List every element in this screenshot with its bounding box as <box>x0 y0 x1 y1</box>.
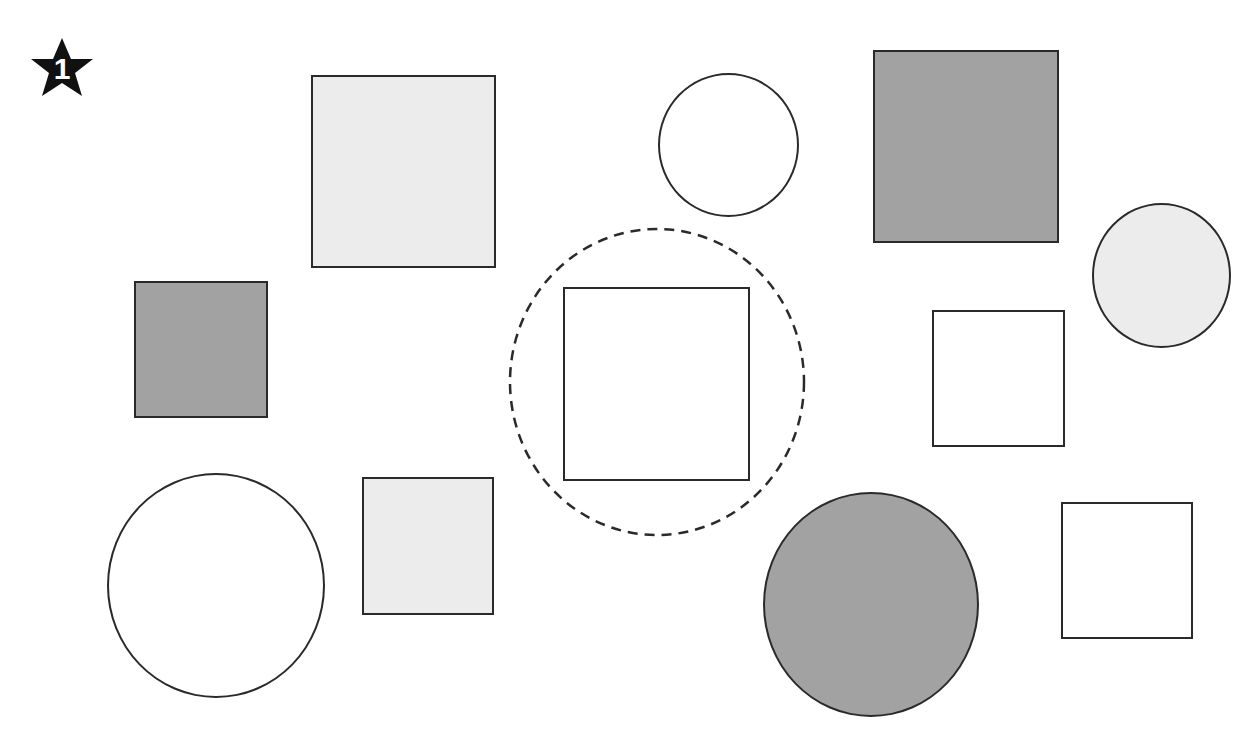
dark-square-top-right <box>873 50 1059 243</box>
light-square-bottom <box>362 477 494 615</box>
white-square-right <box>932 310 1065 447</box>
dark-square-left <box>134 281 268 418</box>
white-circle-bottom-left <box>107 473 325 698</box>
step-number: 1 <box>30 52 94 86</box>
dark-circle-bottom <box>763 492 979 717</box>
white-square-bottom-right <box>1061 502 1193 639</box>
step-badge: 1 <box>30 38 94 100</box>
white-circle-top <box>658 73 799 217</box>
white-square-center <box>563 287 750 481</box>
light-square-top <box>311 75 496 268</box>
light-circle-right <box>1092 203 1231 348</box>
